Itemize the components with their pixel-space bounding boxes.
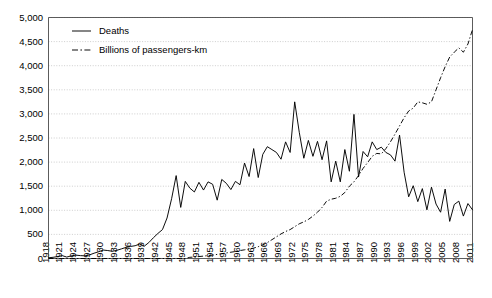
x-axis-tick-label: 1936 xyxy=(122,242,133,263)
x-axis-tick-label: 1954 xyxy=(204,242,215,263)
x-axis-tick-label: 1951 xyxy=(190,242,201,263)
y-axis-tick-label: 1,500 xyxy=(19,180,43,191)
chart-legend: DeathsBillions of passengers-km xyxy=(72,25,207,55)
y-axis-tick-label: 4,000 xyxy=(19,60,43,71)
y-axis-labels: 05001,0001,5002,0002,5003,0003,5004,0004… xyxy=(19,12,43,264)
x-axis-tick-label: 1996 xyxy=(395,242,406,263)
chart-container: 05001,0001,5002,0002,5003,0003,5004,0004… xyxy=(0,0,492,298)
data-series xyxy=(49,30,473,259)
x-axis-tick-label: 2005 xyxy=(436,242,447,263)
y-axis-tick-label: 4,500 xyxy=(19,36,43,47)
x-axis-tick-label: 1993 xyxy=(381,242,392,263)
y-axis-tick-label: 2,500 xyxy=(19,132,43,143)
y-axis-tick-label: 500 xyxy=(27,228,43,239)
x-axis-tick-label: 1933 xyxy=(108,242,119,263)
x-axis-tick-label: 1927 xyxy=(81,242,92,263)
x-axis-tick-label: 1948 xyxy=(176,242,187,263)
x-axis-tick-label: 1942 xyxy=(149,242,160,263)
x-axis-tick-label: 1924 xyxy=(67,242,78,263)
x-axis-tick-label: 1984 xyxy=(340,242,351,263)
legend-label-passenger-km: Billions of passengers-km xyxy=(99,44,207,55)
y-axis-tick-label: 1,000 xyxy=(19,204,43,215)
x-axis-labels: 1918192119241927193019331936193919421945… xyxy=(40,242,475,263)
line-chart: 05001,0001,5002,0002,5003,0003,5004,0004… xyxy=(0,0,492,298)
x-axis-tick-label: 1990 xyxy=(368,242,379,263)
x-axis-tick-label: 1966 xyxy=(258,242,269,263)
y-axis-tick-label: 5,000 xyxy=(19,12,43,23)
x-axis-tick-label: 1987 xyxy=(354,242,365,263)
x-axis-tick-label: 1945 xyxy=(163,242,174,263)
x-axis-tick-label: 1921 xyxy=(53,242,64,263)
x-axis-tick-label: 1963 xyxy=(245,242,256,263)
x-axis-tick-label: 1981 xyxy=(327,242,338,263)
series-line-passenger-km xyxy=(49,30,473,259)
x-axis-tick-label: 2002 xyxy=(422,242,433,263)
x-axis-tick-label: 1978 xyxy=(313,242,324,263)
x-axis-tick-label: 2008 xyxy=(450,242,461,263)
legend-label-deaths: Deaths xyxy=(99,25,129,36)
x-axis-tick-label: 1969 xyxy=(272,242,283,263)
x-axis-tick-label: 1999 xyxy=(409,242,420,263)
series-line-deaths xyxy=(49,102,473,258)
x-axis-tick-label: 1972 xyxy=(286,242,297,263)
y-axis-tick-label: 3,000 xyxy=(19,108,43,119)
y-axis-tick-label: 3,500 xyxy=(19,84,43,95)
y-axis-tick-label: 2,000 xyxy=(19,156,43,167)
x-axis-tick-label: 1975 xyxy=(299,242,310,263)
